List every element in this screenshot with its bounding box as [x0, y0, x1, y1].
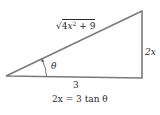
- opposite-side-label: 2x: [145, 48, 156, 57]
- caption-equation: 2x = 3 tan θ: [52, 95, 108, 104]
- angle-theta-label: θ: [51, 62, 56, 71]
- angle-arc: [43, 61, 47, 77]
- adjacent-side-label: 3: [73, 81, 79, 90]
- radicand: 4x2 + 9: [62, 19, 96, 31]
- radicand-constant: + 9: [76, 21, 95, 31]
- hypotenuse-label: √4x2 + 9: [56, 21, 95, 31]
